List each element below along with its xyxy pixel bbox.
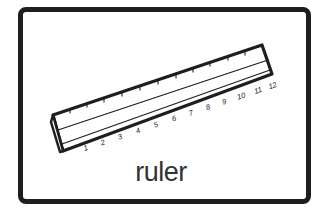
- ruler-number: 9: [221, 97, 229, 107]
- ruler-number: 6: [170, 113, 178, 123]
- ruler-number: 8: [205, 102, 213, 112]
- ruler-number: 2: [98, 137, 107, 147]
- ruler-number: 7: [188, 108, 196, 118]
- card-label: ruler: [0, 157, 322, 188]
- ruler-number: 12: [267, 80, 279, 91]
- ruler-number: 4: [134, 126, 141, 136]
- ruler-number: 3: [116, 131, 124, 141]
- ruler-number: 11: [253, 85, 263, 96]
- ruler-number: 5: [152, 119, 160, 129]
- ruler-number: 10: [236, 90, 248, 101]
- ruler-number: 1: [82, 143, 89, 153]
